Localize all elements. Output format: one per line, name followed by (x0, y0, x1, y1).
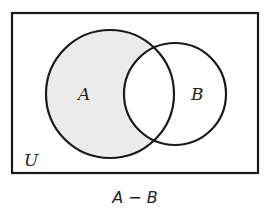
venn-diagram: A B U A − B (0, 0, 275, 215)
diagram-caption: A − B (111, 188, 158, 207)
set-b-label: B (190, 84, 204, 104)
universe-label: U (24, 150, 39, 170)
set-a-label: A (76, 84, 90, 104)
